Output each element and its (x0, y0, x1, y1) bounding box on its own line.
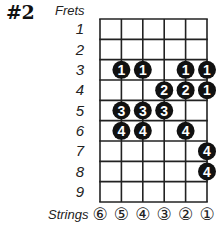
finger-dot: 4 (134, 122, 152, 140)
finger-dot: 1 (134, 61, 152, 79)
string-number: ④ (133, 204, 153, 224)
finger-dot: 1 (112, 61, 130, 79)
finger-dot: 3 (112, 102, 130, 120)
svg-text:4: 4 (182, 123, 190, 139)
svg-text:4: 4 (118, 123, 126, 139)
finger-dot: 3 (155, 102, 173, 120)
svg-text:3: 3 (160, 103, 168, 119)
svg-text:3: 3 (118, 103, 126, 119)
finger-dot: 4 (112, 122, 130, 140)
svg-text:1: 1 (139, 62, 147, 78)
string-number: ③ (154, 204, 174, 224)
finger-dot: 4 (198, 163, 216, 181)
string-number: ① (197, 204, 217, 224)
svg-text:1: 1 (182, 62, 190, 78)
finger-dot: 2 (155, 81, 173, 99)
svg-text:1: 1 (203, 62, 211, 78)
svg-text:2: 2 (160, 82, 168, 98)
finger-dot: 4 (198, 142, 216, 160)
finger-dot: 4 (177, 122, 195, 140)
svg-text:1: 1 (203, 82, 211, 98)
string-number: ② (176, 204, 196, 224)
finger-dot: 1 (177, 61, 195, 79)
svg-text:4: 4 (203, 143, 211, 159)
svg-text:1: 1 (118, 62, 126, 78)
finger-dot: 2 (177, 81, 195, 99)
finger-dot: 1 (198, 81, 216, 99)
svg-text:2: 2 (182, 82, 190, 98)
string-number: ⑤ (111, 204, 131, 224)
svg-text:4: 4 (139, 123, 147, 139)
strings-label: Strings (48, 207, 88, 222)
fretboard-grid: 111122133344444 (0, 0, 224, 230)
finger-dot: 3 (134, 102, 152, 120)
string-number: ⑥ (90, 204, 110, 224)
svg-text:3: 3 (139, 103, 147, 119)
svg-text:4: 4 (203, 164, 211, 180)
finger-dot: 1 (198, 61, 216, 79)
